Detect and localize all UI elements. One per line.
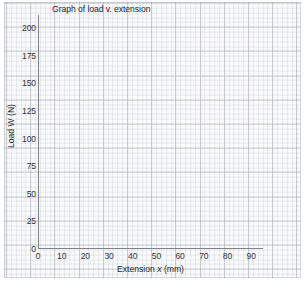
x-tick-label: 90 [236, 252, 266, 261]
y-tick-label: 25 [10, 217, 36, 226]
y-axis-title: Load W (N) [6, 71, 16, 181]
page-margin-bottom [0, 279, 305, 289]
page-margin-right [301, 0, 305, 289]
y-tick-label: 50 [10, 190, 36, 199]
page-margin-top [0, 0, 305, 2]
y-axis-line [38, 15, 39, 249]
y-tick-label: 175 [10, 52, 36, 61]
page-margin-left [0, 0, 4, 289]
x-axis-line [38, 248, 263, 249]
x-axis-title: Extension x (mm) [38, 264, 263, 274]
chart-title: Graph of load v. extension [52, 4, 150, 14]
plot-area [38, 15, 263, 249]
y-tick-label: 200 [10, 24, 36, 33]
chart-figure: Graph of load v. extension 0255075100125… [0, 0, 305, 289]
x-axis-title-suffix: (mm) [162, 264, 184, 274]
x-axis-title-prefix: Extension [117, 264, 157, 274]
